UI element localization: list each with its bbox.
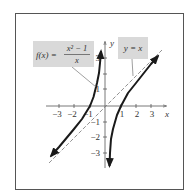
y-axis-label: y [109, 38, 114, 48]
function-label-prefix: f(x) = [36, 50, 57, 60]
function-label-numerator: x² − 1 [66, 43, 88, 53]
function-label-denominator: x [74, 55, 79, 65]
y-tick-label: −3 [90, 148, 100, 158]
chart-frame [16, 14, 184, 190]
x-tick-label: 1 [120, 109, 125, 119]
x-tick-label: −3 [52, 109, 62, 119]
y-tick-label: −1 [90, 117, 100, 127]
x-tick-label: 3 [150, 109, 155, 119]
asymptote-label-text: y = x [123, 43, 143, 53]
x-axis-label: x [164, 109, 169, 119]
x-tick-label: −2 [67, 109, 77, 119]
y-tick-label: −2 [90, 132, 100, 142]
chart-figure: −3 −2 −1 1 2 3 x 3 1 −1 −2 −3 y f(x) = x… [0, 0, 192, 195]
x-tick-label: 2 [135, 109, 140, 119]
